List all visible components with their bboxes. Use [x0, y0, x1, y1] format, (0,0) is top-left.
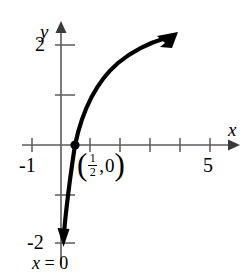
- coordinate-y-value: 0: [105, 156, 115, 175]
- y-tick-label-minus-2: -2: [27, 232, 44, 252]
- fraction-numerator: 1: [90, 152, 96, 165]
- asymptote-label: x = 0: [32, 254, 68, 272]
- x-tick-label-minus-1: -1: [19, 155, 36, 175]
- curve-arrow-start: [58, 228, 70, 247]
- fraction-one-half: 1 2: [88, 152, 97, 178]
- x-axis-label: x: [228, 120, 236, 139]
- log-curve: [58, 32, 179, 247]
- asymptote-equation-rest: = 0: [40, 253, 68, 273]
- coordinate-separator: ,: [99, 156, 104, 175]
- open-paren: (: [77, 153, 87, 178]
- fraction-denominator: 2: [90, 166, 96, 179]
- y-tick-label-2: 2: [35, 34, 45, 54]
- close-paren: ): [115, 153, 125, 178]
- point-label-half-zero: ( 1 2 , 0 ): [77, 152, 125, 178]
- x-axis: [22, 138, 240, 152]
- asymptote-variable: x: [32, 253, 40, 273]
- log-function-graph-figure: y x 2 -2 -1 5 ( 1 2 , 0 ) x = 0: [0, 0, 250, 277]
- x-tick-label-5: 5: [203, 155, 213, 175]
